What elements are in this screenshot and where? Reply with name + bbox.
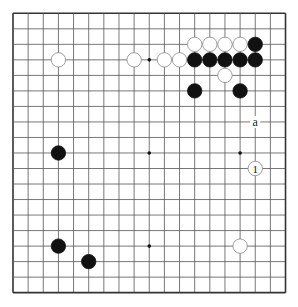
black-stone: [233, 84, 247, 98]
white-stone: [51, 53, 65, 67]
point-label-a: a: [253, 115, 259, 129]
black-stone: [51, 146, 65, 160]
star-point: [147, 151, 151, 155]
board-marks: a: [250, 115, 260, 129]
white-stone: [218, 37, 232, 51]
white-stone: [233, 239, 247, 253]
black-stone: [82, 254, 96, 268]
black-stone: [187, 53, 201, 67]
black-stone: [218, 53, 232, 67]
star-point: [238, 151, 242, 155]
black-stone: [233, 53, 247, 67]
move-number-label: 1: [252, 163, 258, 175]
white-stone: [233, 37, 247, 51]
white-stone: [203, 37, 217, 51]
black-stone: [248, 37, 262, 51]
white-stone: [157, 53, 171, 67]
go-board: 1 a: [0, 0, 298, 307]
white-stone: [172, 53, 186, 67]
white-stone: [187, 37, 201, 51]
black-stone: [203, 53, 217, 67]
white-stone: [218, 68, 232, 82]
black-stone: [187, 84, 201, 98]
star-point: [147, 58, 151, 62]
black-stone: [51, 239, 65, 253]
star-point: [147, 244, 151, 248]
black-stone: [248, 53, 262, 67]
white-stone: [127, 53, 141, 67]
